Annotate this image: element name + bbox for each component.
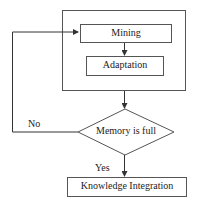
integration-label: Knowledge Integration [67,180,187,191]
no-label: No [28,118,40,129]
decision-label: Memory is full [78,125,174,136]
adaptation-label: Adaptation [86,59,164,70]
yes-label: Yes [95,162,110,173]
edge-no-loop [13,32,79,132]
mining-label: Mining [80,27,172,38]
